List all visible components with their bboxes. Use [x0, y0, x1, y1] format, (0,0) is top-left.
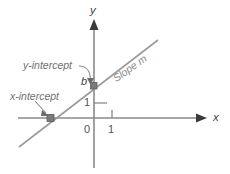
x-axis-arrowhead: [196, 114, 207, 123]
y-axis-arrowhead: [90, 19, 99, 30]
x-tick-label-1: 1: [108, 124, 114, 135]
origin-label: 0: [84, 124, 90, 135]
x-intercept-leader-line: [35, 101, 46, 113]
y-axis-label: y: [90, 5, 96, 17]
linear-graph-figure: y x 0 1 1 b y-intercept x-intercept Slop…: [0, 0, 230, 174]
graph-canvas: [0, 0, 230, 174]
y-intercept-value-label: b: [81, 76, 87, 87]
x-intercept-leader-arrowhead: [41, 110, 49, 116]
y-intercept-marker: [91, 83, 98, 90]
y-intercept-annotation: y-intercept: [23, 60, 72, 71]
x-intercept-annotation: x-intercept: [10, 91, 59, 102]
x-axis-label: x: [213, 112, 219, 124]
y-tick-label-1: 1: [84, 97, 90, 108]
